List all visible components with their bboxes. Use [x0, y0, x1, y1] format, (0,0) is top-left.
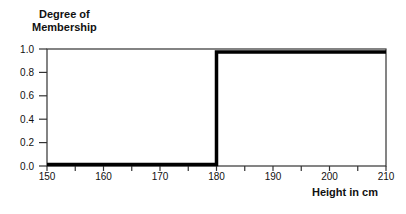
membership-step-line: [47, 52, 386, 165]
y-tick-label: 0.6: [20, 90, 34, 101]
x-axis-title: Height in cm: [312, 186, 378, 198]
x-tick-label: 160: [95, 171, 112, 182]
y-tick-label: 1.0: [20, 44, 34, 55]
x-tick-label: 170: [152, 171, 169, 182]
y-axis-ticks: 0.00.20.40.60.81.0: [20, 44, 47, 172]
x-tick-label: 190: [265, 171, 282, 182]
x-tick-label: 210: [378, 171, 395, 182]
y-tick-label: 0.0: [20, 161, 34, 172]
x-tick-label: 180: [208, 171, 225, 182]
y-tick-label: 0.2: [20, 137, 34, 148]
x-tick-label: 200: [321, 171, 338, 182]
y-tick-label: 0.4: [20, 114, 34, 125]
y-tick-label: 0.8: [20, 67, 34, 78]
x-tick-label: 150: [39, 171, 56, 182]
membership-chart: 0.00.20.40.60.81.0 150160170180190200210: [0, 0, 406, 214]
data-series: [47, 52, 386, 165]
x-axis-ticks: 150160170180190200210: [39, 166, 395, 182]
